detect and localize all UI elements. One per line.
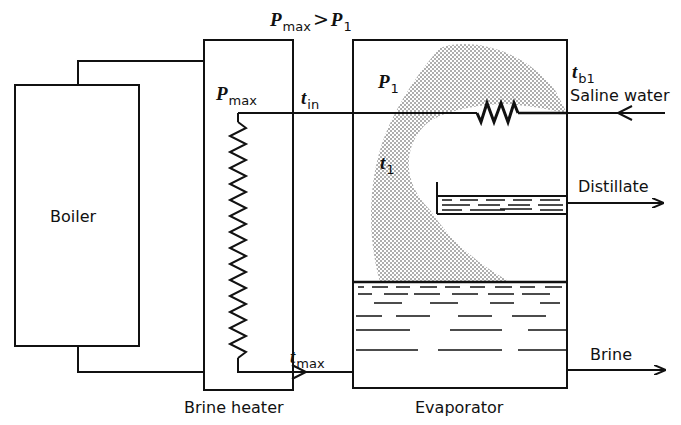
pressure-relation: Pmax>P1 [270,10,352,29]
heater-coil-icon [230,122,246,358]
brine-label: Brine [590,347,632,363]
distillate-liquid [442,200,563,210]
distillate-label: Distillate [578,179,649,195]
t-max-symbol: tmax [290,347,325,366]
condenser-coil-icon [477,103,518,122]
brine-liquid [356,287,566,350]
p-max-symbol: Pmax [216,84,257,103]
vapour-region [371,44,567,282]
t-1-symbol: t1 [380,153,395,172]
t-b1-symbol: tb1 [572,62,595,81]
condensate-return-pipe [78,346,204,372]
p-1-symbol: P1 [378,72,399,91]
t-in-symbol: tin [301,88,319,107]
steam-supply-pipe [78,61,204,85]
brine-heater-label: Brine heater [184,400,284,416]
boiler-label: Boiler [50,209,96,225]
evaporator-label: Evaporator [415,400,503,416]
saline-water-label: Saline water [570,88,670,104]
